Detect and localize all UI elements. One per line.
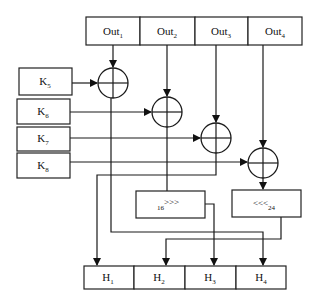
xor-icon-2 bbox=[152, 97, 182, 127]
h-label-1: H bbox=[102, 271, 110, 283]
out-label-3: Out bbox=[211, 25, 228, 37]
key-subscript-7: 7 bbox=[45, 139, 49, 147]
wire-rotate-right-to-h3 bbox=[205, 204, 214, 265]
out-box-2: Out2 bbox=[140, 17, 195, 45]
key-box-6: K6 bbox=[17, 99, 70, 124]
out-label-4: Out bbox=[265, 25, 282, 37]
hash-register: H1 H2 H3 H4 bbox=[84, 266, 286, 289]
key-box-8: K8 bbox=[17, 153, 70, 178]
out-subscript-4: 4 bbox=[282, 32, 286, 40]
xor-icon-4 bbox=[248, 148, 278, 178]
h-subscript-4: 4 bbox=[263, 278, 267, 286]
out-subscript-2: 2 bbox=[174, 32, 178, 40]
rotate-right-box: 16>>> bbox=[136, 191, 205, 218]
xor-icon-3 bbox=[201, 123, 231, 153]
rotate-left-symbol: <<< bbox=[253, 198, 268, 208]
h-box-3: H3 bbox=[185, 266, 236, 289]
key-label-7: K bbox=[37, 132, 45, 144]
rotate-left-box: <<<24 bbox=[232, 190, 301, 217]
out-box-1: Out1 bbox=[86, 17, 140, 45]
key-label-5: K bbox=[39, 75, 47, 87]
key-label-6: K bbox=[37, 105, 45, 117]
out-box-4: Out4 bbox=[248, 17, 302, 45]
rotate-right-symbol: >>> bbox=[164, 197, 179, 207]
key-inputs: K5 K6 K7 K8 bbox=[17, 68, 72, 178]
h-box-4: H4 bbox=[236, 266, 286, 289]
h-box-1: H1 bbox=[84, 266, 134, 289]
out-box-3: Out3 bbox=[195, 17, 248, 45]
h-box-2: H2 bbox=[134, 266, 185, 289]
h-label-4: H bbox=[255, 271, 263, 283]
h-subscript-3: 3 bbox=[212, 278, 216, 286]
wire-xor1-to-h4 bbox=[111, 98, 263, 265]
key-subscript-5: 5 bbox=[47, 82, 51, 90]
xor-icon-1 bbox=[98, 68, 128, 98]
h-label-3: H bbox=[204, 271, 212, 283]
h-subscript-1: 1 bbox=[110, 278, 114, 286]
key-subscript-6: 6 bbox=[45, 112, 49, 120]
out-label-1: Out bbox=[103, 25, 120, 37]
key-label-8: K bbox=[37, 159, 45, 171]
out-subscript-3: 3 bbox=[228, 32, 232, 40]
h-label-2: H bbox=[153, 271, 161, 283]
rotate-left-amount: 24 bbox=[268, 204, 276, 212]
out-subscript-1: 1 bbox=[120, 32, 124, 40]
wire-rotate-left-to-h2 bbox=[166, 217, 281, 265]
key-schedule-diagram: Out1 Out2 Out3 Out4 K5 K6 K7 bbox=[0, 0, 317, 304]
output-register: Out1 Out2 Out3 Out4 bbox=[86, 17, 302, 45]
key-box-7: K7 bbox=[17, 127, 70, 151]
key-subscript-8: 8 bbox=[45, 166, 49, 174]
h-subscript-2: 2 bbox=[161, 278, 165, 286]
key-box-5: K5 bbox=[19, 68, 72, 95]
out-label-2: Out bbox=[157, 25, 174, 37]
